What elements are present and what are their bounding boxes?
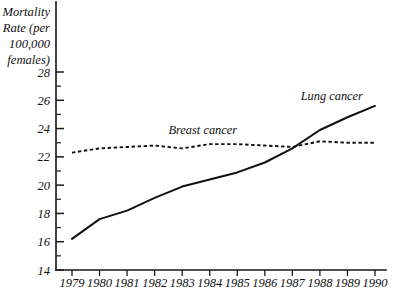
chart-figure: Mortality Rate (per 100,000 females) 141… xyxy=(0,0,400,289)
x-tick-label-1983: 1983 xyxy=(170,276,195,289)
annotation-breast-cancer: Breast cancer xyxy=(168,123,237,137)
x-tick-label-1988: 1988 xyxy=(307,276,333,289)
y-tick-label-16: 16 xyxy=(38,235,51,249)
y-axis-title-line-0: Mortality xyxy=(1,5,50,19)
x-tick-label-1985: 1985 xyxy=(225,276,250,289)
x-tick-label-1986: 1986 xyxy=(252,276,278,289)
x-tick-label-1979: 1979 xyxy=(60,276,86,289)
y-axis-title-line-2: 100,000 xyxy=(9,37,51,51)
y-axis-title: Mortality Rate (per 100,000 females) xyxy=(1,5,50,67)
y-axis-tick-labels: 1416182022242628 xyxy=(38,66,51,278)
x-tick-label-1981: 1981 xyxy=(115,276,140,289)
mortality-rate-line-chart: Mortality Rate (per 100,000 females) 141… xyxy=(0,0,400,289)
x-tick-label-1987: 1987 xyxy=(280,276,306,289)
x-tick-label-1984: 1984 xyxy=(197,276,222,289)
x-tick-label-1982: 1982 xyxy=(142,276,167,289)
x-tick-label-1989: 1989 xyxy=(335,276,361,289)
y-tick-label-28: 28 xyxy=(38,66,51,80)
y-tick-label-22: 22 xyxy=(38,150,51,164)
y-tick-label-24: 24 xyxy=(38,122,51,136)
y-tick-label-20: 20 xyxy=(38,179,51,193)
y-tick-label-14: 14 xyxy=(38,264,51,278)
x-axis-tick-labels: 1979198019811982198319841985198619871988… xyxy=(60,276,389,289)
y-tick-label-18: 18 xyxy=(38,207,51,221)
x-tick-label-1990: 1990 xyxy=(363,276,389,289)
y-tick-label-26: 26 xyxy=(38,94,51,108)
x-tick-label-1980: 1980 xyxy=(87,276,113,289)
series-line-breast-cancer xyxy=(72,141,375,152)
annotation-lung-cancer: Lung cancer xyxy=(300,89,363,103)
y-axis-title-line-1: Rate (per xyxy=(2,21,50,35)
series-annotations: Lung cancerBreast cancer xyxy=(168,89,363,137)
